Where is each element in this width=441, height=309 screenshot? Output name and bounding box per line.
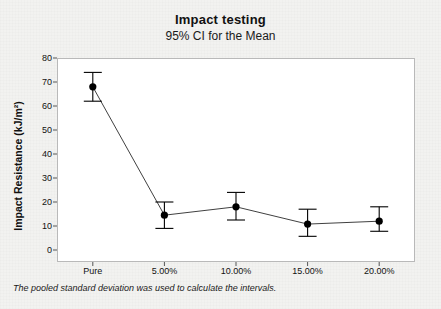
data-point-marker [304,220,311,227]
data-point-marker [161,212,168,219]
footnote: The pooled standard deviation was used t… [13,283,276,293]
data-point-marker [376,218,383,225]
data-point-marker [89,83,96,90]
chart-figure: Impact testing 95% CI for the Mean Impac… [0,0,441,309]
data-point-marker [232,203,239,210]
data-layer [0,0,441,309]
